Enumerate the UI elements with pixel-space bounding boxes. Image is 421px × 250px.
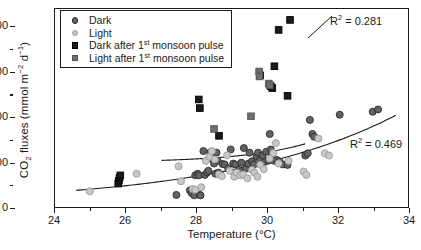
data-point-square <box>256 73 263 80</box>
data-point-circle <box>270 150 277 157</box>
legend-item-label: Dark after 1st monsoon pulse <box>85 39 224 51</box>
x-tick-mark <box>267 208 268 213</box>
data-point-square <box>248 113 255 120</box>
y-axis-title-mid-2: d <box>18 55 30 65</box>
y-minor-tick-mark <box>10 185 13 186</box>
data-point-circle <box>304 150 311 157</box>
data-point-square <box>266 82 273 89</box>
data-point-square <box>197 105 204 112</box>
x-minor-tick-mark <box>374 208 375 211</box>
legend-swatch <box>72 55 79 62</box>
y-tick-label: 200 <box>0 156 8 168</box>
data-point-circle <box>272 140 279 147</box>
x-tick-label: 32 <box>326 214 350 226</box>
data-point-circle <box>266 131 273 138</box>
scatter-plot-figure: CO2 fluxes (mmol m−2 d−1) Temperature (°… <box>0 0 421 250</box>
y-axis-title-exponent-1: −2 <box>16 65 25 74</box>
data-point-circle <box>254 173 261 180</box>
data-point-circle <box>173 191 180 198</box>
legend-swatch <box>72 42 79 49</box>
y-axis-title: CO2 fluxes (mmol m−2 d−1) <box>18 10 30 210</box>
x-tick-label: 34 <box>397 214 421 226</box>
data-point-circle <box>260 166 267 173</box>
legend[interactable]: DarkLightDark after 1st monsoon pulseLig… <box>60 10 232 68</box>
data-point-circle <box>211 156 218 163</box>
data-point-circle <box>205 167 212 174</box>
data-point-circle <box>238 159 245 166</box>
x-minor-tick-mark <box>90 208 91 211</box>
y-axis-title-exponent-2: −1 <box>16 46 25 55</box>
legend-marker-circle-icon <box>65 30 85 37</box>
y-minor-tick-mark <box>10 49 13 50</box>
data-point-circle <box>244 175 251 182</box>
data-point-square <box>287 17 294 24</box>
legend-item-label: Light <box>85 27 112 39</box>
legend-swatch <box>72 30 79 37</box>
r-squared-label-upper: R2 = 0.281 <box>330 15 382 27</box>
legend-label-suffix: monsoon pulse <box>149 39 223 51</box>
data-point-circle <box>285 157 292 164</box>
x-tick-label: 26 <box>113 214 137 226</box>
data-point-circle <box>86 188 93 195</box>
data-point-square <box>195 96 202 103</box>
y-tick-mark <box>10 72 15 73</box>
y-minor-tick-mark <box>10 140 13 141</box>
x-tick-mark <box>409 208 410 213</box>
data-point-circle <box>336 111 343 118</box>
x-axis-title: Temperature (°C) <box>54 228 409 240</box>
r2-lower-value: = 0.469 <box>362 138 402 150</box>
legend-item-label: Dark <box>85 14 111 26</box>
legend-item[interactable]: Dark <box>65 14 224 27</box>
y-axis-title-mid: fluxes (mmol m <box>18 74 30 157</box>
data-point-circle <box>208 148 215 155</box>
y-axis-title-suffix: ) <box>18 42 30 46</box>
data-point-square <box>284 93 291 100</box>
legend-swatch <box>72 17 79 24</box>
legend-item-label: Light after 1st monsoon pulse <box>85 52 224 64</box>
data-point-circle <box>133 170 140 177</box>
data-point-square <box>117 172 124 179</box>
data-point-circle <box>306 116 313 123</box>
data-point-circle <box>275 160 282 167</box>
y-tick-label: 600 <box>0 65 8 77</box>
data-point-square <box>275 27 282 34</box>
legend-marker-square-icon <box>65 55 85 62</box>
data-point-circle <box>326 152 333 159</box>
y-tick-label: 800 <box>0 19 8 31</box>
data-point-circle <box>198 184 205 191</box>
y-tick-mark <box>10 208 15 209</box>
x-tick-mark <box>54 208 55 213</box>
y-tick-label: 400 <box>0 110 8 122</box>
data-point-circle <box>175 163 182 170</box>
y-minor-tick-mark <box>10 94 13 95</box>
x-minor-tick-mark <box>161 208 162 211</box>
data-point-circle <box>315 135 322 142</box>
y-tick-label: 0 <box>2 201 8 213</box>
data-point-circle <box>375 106 382 113</box>
data-point-circle <box>303 171 310 178</box>
y-tick-mark <box>10 117 15 118</box>
data-point-circle <box>197 192 204 199</box>
x-tick-mark <box>338 208 339 213</box>
x-tick-label: 30 <box>255 214 279 226</box>
legend-item[interactable]: Light <box>65 27 224 40</box>
data-point-square <box>211 126 218 133</box>
r2-upper-prefix: R <box>330 15 338 27</box>
x-minor-tick-mark <box>232 208 233 211</box>
x-minor-tick-mark <box>303 208 304 211</box>
legend-label-suffix: monsoon pulse <box>150 52 224 64</box>
legend-item[interactable]: Light after 1st monsoon pulse <box>65 52 224 65</box>
r2-upper-value: = 0.281 <box>342 15 382 27</box>
data-point-circle <box>200 148 207 155</box>
r2-lower-prefix: R <box>350 138 358 150</box>
y-axis-title-prefix: CO <box>18 161 30 178</box>
legend-marker-circle-icon <box>65 17 85 24</box>
data-point-square <box>216 133 223 140</box>
r-squared-label-lower: R2 = 0.469 <box>350 138 402 150</box>
data-point-circle <box>178 178 185 185</box>
legend-item[interactable]: Dark after 1st monsoon pulse <box>65 39 224 52</box>
y-tick-mark <box>10 163 15 164</box>
x-tick-mark <box>125 208 126 213</box>
data-point-circle <box>224 152 231 159</box>
data-point-square <box>271 63 278 70</box>
